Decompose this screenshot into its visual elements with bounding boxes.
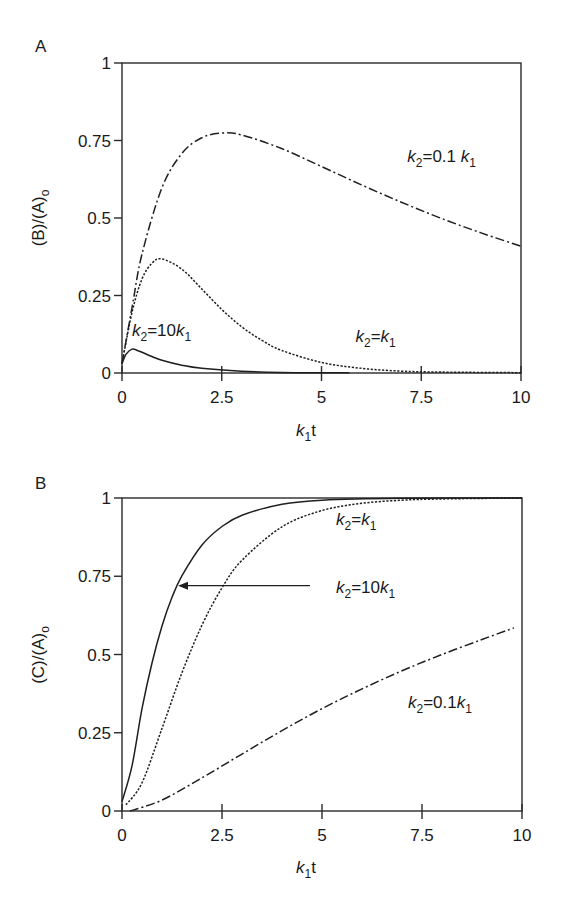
y-axis-ticks-b: 00.250.50.751 [78,489,122,821]
x-tick-label: 5 [317,388,326,407]
y-tick-label: 0 [102,364,111,383]
series-label: k2=10k1 [336,578,396,601]
y-tick-label: 0.75 [78,132,111,151]
y-axis-title-a: (B)/(A)o [29,189,52,246]
x-axis-title-a: k1t [296,421,316,444]
x-tick-label: 10 [512,388,531,407]
arrow-head-icon [178,582,188,590]
series-curve [130,628,514,811]
x-tick-label: 2.5 [210,826,234,845]
x-tick-label: 0 [117,826,126,845]
series-label: k2=0.1k1 [408,693,472,716]
chart-panel-b: B 00.250.50.751 02.557.510 k2=k1k2=10k1k… [29,474,531,881]
series-curve [122,259,521,373]
annotations-b: k2=k1k2=10k1k2=0.1k1 [178,510,472,716]
y-tick-label: 0.25 [78,724,111,743]
plot-frame-b [122,498,522,811]
x-axis-title-b: k1t [296,858,316,881]
x-tick-label: 5 [317,826,326,845]
y-tick-label: 0.25 [78,287,111,306]
y-tick-label: 0 [102,802,111,821]
annotations-a: k2=0.1 k1k2=10k1k2=k1 [132,147,476,350]
series-label: k2=k1 [355,327,396,350]
x-tick-label: 0 [117,388,126,407]
panel-label-b: B [35,474,46,493]
series-curve [122,498,522,802]
series-label: k2=0.1 k1 [407,147,476,170]
y-axis-ticks-a: 00.250.50.751 [78,54,122,383]
x-tick-label: 2.5 [210,388,234,407]
panel-label-a: A [35,37,47,56]
y-tick-label: 0.75 [78,567,111,586]
curves-b [122,498,522,811]
y-tick-label: 1 [102,54,111,73]
series-curve [126,498,522,805]
x-axis-ticks-b: 02.557.510 [117,804,531,845]
x-tick-label: 7.5 [409,388,433,407]
x-tick-label: 10 [513,826,532,845]
chart-panel-a: A 00.250.50.751 02.557.510 k2=0.1 k1k2=1… [29,37,530,444]
y-tick-label: 0.5 [87,209,111,228]
series-label: k2=k1 [336,510,377,533]
y-tick-label: 1 [102,489,111,508]
figure: A 00.250.50.751 02.557.510 k2=0.1 k1k2=1… [0,0,561,913]
y-axis-title-b: (C)/(A)o [29,626,52,684]
y-tick-label: 0.5 [87,646,111,665]
x-tick-label: 7.5 [410,826,434,845]
series-label: k2=10k1 [132,321,192,344]
